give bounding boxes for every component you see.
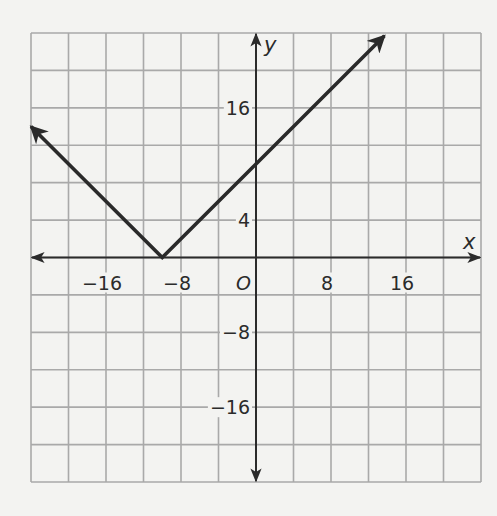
x-axis-label: x [462,230,476,254]
coordinate-graph: −16−8816164−8−16 x y O [0,0,497,516]
axes [32,34,480,481]
x-tick-label: 16 [390,272,414,294]
y-tick-label: −8 [222,321,250,343]
y-tick-label: 4 [238,209,250,231]
x-tick-label: −16 [82,272,122,294]
x-tick-label: 8 [321,272,333,294]
axis-labels: x y O [236,33,476,294]
x-tick-label: −8 [163,272,191,294]
y-tick-label: −16 [210,396,250,418]
plot-area: −16−8816164−8−16 x y O [0,0,497,516]
origin-label: O [236,272,251,294]
y-axis-label: y [263,33,277,57]
y-tick-label: 16 [226,97,250,119]
